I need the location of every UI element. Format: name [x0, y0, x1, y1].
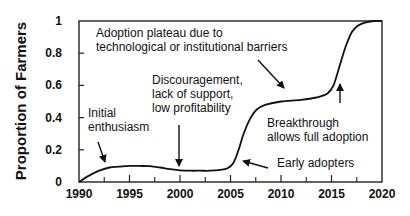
svg-text:enthusiasm: enthusiasm — [88, 120, 149, 134]
svg-text:technological or institutional: technological or institutional barriers — [96, 40, 287, 54]
svg-text:Initial: Initial — [88, 106, 116, 120]
annotation-early-adopters: Early adopters — [243, 156, 354, 170]
annotation-discouragement: Discouragement, lack of support, low pro… — [152, 73, 243, 166]
y-tick-label: 0.6 — [45, 78, 62, 92]
svg-text:low profitability: low profitability — [152, 101, 231, 115]
x-axis-ticks: 1990199520002005201020152020 — [66, 175, 396, 201]
x-tick-label: 2015 — [318, 187, 345, 201]
x-tick-label: 1995 — [116, 187, 143, 201]
svg-text:lack of support,: lack of support, — [152, 87, 233, 101]
y-tick-label: 0 — [55, 175, 62, 189]
y-axis-ticks: 00.20.40.60.81 — [45, 14, 84, 189]
svg-text:Early adopters: Early adopters — [277, 156, 354, 170]
arrow-initial — [98, 142, 105, 162]
svg-text:Adoption plateau due to: Adoption plateau due to — [96, 26, 223, 40]
x-tick-label: 1990 — [66, 187, 93, 201]
svg-text:Breakthrough: Breakthrough — [267, 116, 339, 130]
y-tick-label: 0.4 — [45, 111, 62, 125]
x-tick-label: 2010 — [268, 187, 295, 201]
adoption-chart: Proportion of Farmers 00.20.40.60.81 199… — [0, 0, 410, 216]
x-tick-label: 2005 — [217, 187, 244, 201]
annotation-initial: Initial enthusiasm — [88, 106, 149, 162]
arrow-plateau — [258, 60, 284, 88]
y-tick-label: 0.2 — [45, 143, 62, 157]
svg-text:allows full adoption: allows full adoption — [267, 130, 368, 144]
y-tick-label: 0.8 — [45, 46, 62, 60]
x-tick-label: 2000 — [167, 187, 194, 201]
x-tick-label: 2020 — [369, 187, 396, 201]
y-tick-label: 1 — [55, 14, 62, 28]
y-axis-label: Proportion of Farmers — [12, 22, 29, 180]
svg-text:Discouragement,: Discouragement, — [152, 73, 243, 87]
arrow-early-adopters — [243, 161, 268, 168]
annotation-breakthrough: Breakthrough allows full adoption — [267, 84, 368, 144]
